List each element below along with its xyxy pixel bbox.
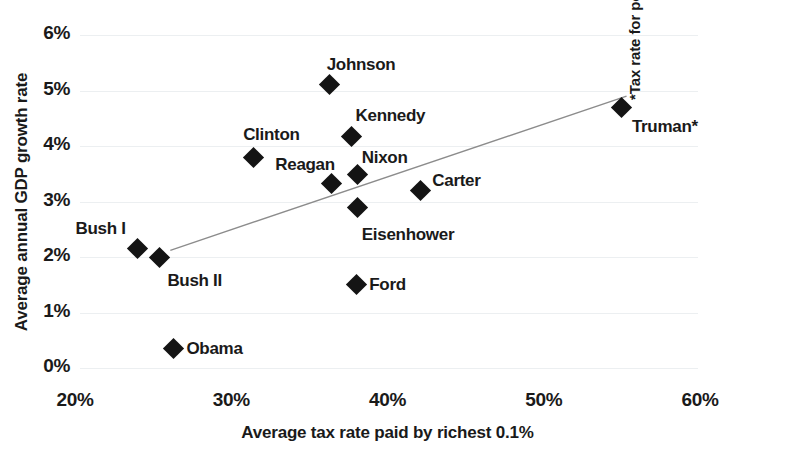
x-tick-label: 20% bbox=[30, 389, 120, 411]
data-point-label: Truman* bbox=[632, 117, 698, 137]
data-point-label: Nixon bbox=[362, 148, 408, 168]
scatter-chart: 0%1%2%3%4%5%6% 20%30%40%50%60% Bush IBus… bbox=[0, 0, 786, 451]
x-tick-label: 60% bbox=[655, 389, 745, 411]
y-axis-title: Average annual GDP growth rate bbox=[12, 32, 32, 372]
data-point-label: Eisenhower bbox=[362, 225, 454, 245]
data-point-label: Carter bbox=[432, 171, 480, 191]
data-point-label: Obama bbox=[186, 339, 242, 359]
data-point-label: Kennedy bbox=[356, 106, 426, 126]
x-tick-label: 50% bbox=[499, 389, 589, 411]
data-point-label: Reagan bbox=[275, 155, 335, 175]
x-tick-label: 40% bbox=[343, 389, 433, 411]
data-point-label: Clinton bbox=[243, 125, 299, 145]
data-point-label: Johnson bbox=[327, 55, 396, 75]
x-axis-title: Average tax rate paid by richest 0.1% bbox=[75, 423, 700, 443]
data-point-label: Bush II bbox=[167, 271, 222, 291]
data-point-label: Bush I bbox=[76, 219, 126, 239]
x-tick-label: 30% bbox=[186, 389, 276, 411]
data-point-label: Ford bbox=[369, 275, 406, 295]
footnote-annotation: *Tax rate for post-war period only. bbox=[626, 0, 643, 100]
